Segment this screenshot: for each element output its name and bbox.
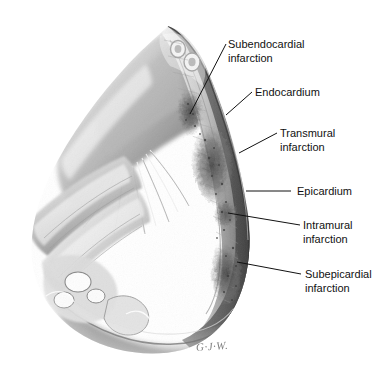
label-transmural-line1: Transmural [280, 127, 335, 141]
label-transmural: Transmuralinfarction [280, 127, 335, 154]
label-intramural-line2: infarction [303, 233, 353, 247]
artist-signature: G·J·W. [196, 339, 229, 353]
label-subepicardial-line1: Subepicardial [305, 268, 372, 282]
label-subepicardial: Subepicardialinfarction [305, 268, 372, 295]
label-intramural-line1: Intramural [303, 219, 353, 233]
illustration-figure: SubendocardialinfarctionEndocardiumTrans… [0, 0, 386, 382]
label-subendocardial-line1: Subendocardial [228, 38, 304, 52]
label-endocardium: Endocardium [255, 86, 320, 100]
label-subendocardial-line2: infarction [228, 52, 304, 66]
label-epicardium: Epicardium [297, 185, 352, 199]
label-transmural-line2: infarction [280, 141, 335, 155]
label-epicardium-line1: Epicardium [297, 185, 352, 199]
label-intramural: Intramuralinfarction [303, 219, 353, 246]
label-subendocardial: Subendocardialinfarction [228, 38, 304, 65]
label-endocardium-line1: Endocardium [255, 86, 320, 100]
label-subepicardial-line2: infarction [305, 282, 372, 296]
